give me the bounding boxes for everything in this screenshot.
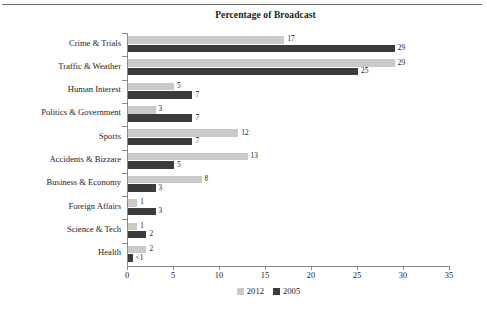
x-axis-tick bbox=[219, 266, 220, 270]
chart-row: Sports127 bbox=[0, 126, 487, 149]
bar-value-label: 8 bbox=[205, 175, 209, 182]
bar-2012 bbox=[128, 129, 238, 137]
bar-value-label: 25 bbox=[361, 67, 368, 74]
bar-value-label: 29 bbox=[398, 59, 405, 66]
x-axis-tick bbox=[265, 266, 266, 270]
bar-2012 bbox=[128, 176, 202, 184]
category-label: Business & Economy bbox=[47, 177, 121, 187]
bar-2005 bbox=[128, 91, 192, 99]
bar-value-label: 3 bbox=[159, 207, 163, 214]
y-axis-tick bbox=[122, 126, 127, 127]
y-axis-tick bbox=[122, 33, 127, 34]
category-label: Accidents & Bizzare bbox=[49, 154, 121, 164]
legend-item-2012[interactable]: 2012 bbox=[237, 286, 264, 296]
category-label: Foreign Affairs bbox=[68, 201, 121, 211]
chart-row: Business & Economy83 bbox=[0, 173, 487, 196]
bar-value-label: 2 bbox=[149, 230, 153, 237]
y-axis-tick bbox=[122, 243, 127, 244]
bar-value-label: 3 bbox=[159, 105, 163, 112]
bar-value-label: 7 bbox=[195, 114, 199, 121]
x-axis-tick bbox=[403, 266, 404, 270]
x-axis-tick-label: 10 bbox=[215, 271, 223, 280]
bar-value-label: 3 bbox=[159, 184, 163, 191]
bar-value-label: 5 bbox=[177, 161, 181, 168]
bar-2012 bbox=[128, 199, 137, 207]
bar-value-label: <1 bbox=[136, 254, 144, 261]
bar-2012 bbox=[128, 36, 284, 44]
category-label: Science & Tech bbox=[67, 224, 121, 234]
bar-2005 bbox=[128, 114, 192, 122]
bar-2005 bbox=[128, 45, 395, 53]
category-label: Sports bbox=[99, 131, 121, 141]
y-axis-tick bbox=[122, 56, 127, 57]
bar-2012 bbox=[128, 106, 156, 114]
y-axis-tick bbox=[122, 150, 127, 151]
legend-swatch-icon bbox=[273, 288, 280, 295]
chart-legend: 20122005 bbox=[0, 286, 487, 296]
y-axis-tick bbox=[122, 103, 127, 104]
x-axis-tick-label: 30 bbox=[399, 271, 407, 280]
x-axis-tick bbox=[127, 266, 128, 270]
chart-row: Crime & Trials1729 bbox=[0, 33, 487, 56]
y-axis-tick bbox=[122, 80, 127, 81]
bar-2012 bbox=[128, 59, 395, 67]
chart-row: Politics & Government37 bbox=[0, 103, 487, 126]
legend-swatch-icon bbox=[237, 288, 244, 295]
chart-row: Science & Tech12 bbox=[0, 219, 487, 242]
bar-2012 bbox=[128, 83, 174, 91]
bar-2005 bbox=[128, 208, 156, 216]
chart-row: Health2<1 bbox=[0, 243, 487, 266]
legend-label: 2012 bbox=[247, 286, 264, 296]
x-axis-tick bbox=[357, 266, 358, 270]
category-label: Traffic & Weather bbox=[58, 61, 121, 71]
x-axis-tick-label: 25 bbox=[353, 271, 361, 280]
bar-value-label: 1 bbox=[140, 198, 144, 205]
chart-row: Human Interest57 bbox=[0, 80, 487, 103]
bar-value-label: 29 bbox=[398, 44, 405, 51]
chart-row: Foreign Affairs13 bbox=[0, 196, 487, 219]
chart-row: Traffic & Weather2925 bbox=[0, 56, 487, 79]
y-axis-tick bbox=[122, 173, 127, 174]
x-axis-tick bbox=[449, 266, 450, 270]
bar-2005 bbox=[128, 254, 133, 262]
chart-page: Percentage of Broadcast Crime & Trials17… bbox=[0, 0, 487, 310]
category-label: Human Interest bbox=[68, 84, 121, 94]
x-axis-tick-label: 35 bbox=[445, 271, 453, 280]
y-axis-tick bbox=[122, 219, 127, 220]
bar-value-label: 5 bbox=[177, 82, 181, 89]
chart-row: Accidents & Bizzare135 bbox=[0, 150, 487, 173]
x-axis-tick bbox=[311, 266, 312, 270]
x-axis-tick bbox=[173, 266, 174, 270]
bar-2012 bbox=[128, 153, 248, 161]
x-axis-tick-label: 20 bbox=[307, 271, 315, 280]
bar-2005 bbox=[128, 184, 156, 192]
plot-area: Crime & Trials1729Traffic & Weather2925H… bbox=[0, 0, 487, 310]
legend-label: 2005 bbox=[283, 286, 300, 296]
bar-value-label: 2 bbox=[149, 245, 153, 252]
x-axis-tick-label: 15 bbox=[261, 271, 269, 280]
bar-value-label: 7 bbox=[195, 137, 199, 144]
category-label: Politics & Government bbox=[41, 107, 121, 117]
x-axis-ticks: 05101520253035 bbox=[0, 266, 487, 286]
bar-2005 bbox=[128, 231, 146, 239]
bar-2005 bbox=[128, 161, 174, 169]
legend-item-2005[interactable]: 2005 bbox=[273, 286, 300, 296]
bar-rows: Crime & Trials1729Traffic & Weather2925H… bbox=[0, 33, 487, 266]
bar-value-label: 12 bbox=[241, 129, 248, 136]
bar-value-label: 1 bbox=[140, 222, 144, 229]
bar-value-label: 13 bbox=[251, 152, 258, 159]
bar-2012 bbox=[128, 223, 137, 231]
bar-2005 bbox=[128, 68, 358, 76]
x-axis-tick-label: 0 bbox=[125, 271, 129, 280]
y-axis-tick bbox=[122, 196, 127, 197]
bar-value-label: 7 bbox=[195, 91, 199, 98]
category-label: Crime & Trials bbox=[69, 38, 121, 48]
x-axis-tick-label: 5 bbox=[171, 271, 175, 280]
category-label: Health bbox=[98, 247, 121, 257]
bar-2005 bbox=[128, 138, 192, 146]
bar-value-label: 17 bbox=[287, 35, 294, 42]
